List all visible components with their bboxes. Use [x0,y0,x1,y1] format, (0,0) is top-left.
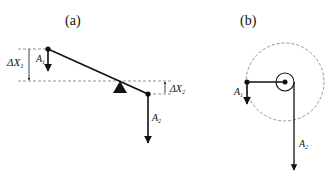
force-a1-label: A1 [35,53,45,65]
panel-a-label: (a) [65,13,81,29]
lever-bar [48,49,148,94]
force-a1-label-b: A1 [233,86,243,98]
force-a2-label: A2 [151,112,161,124]
panel-b: (b) A1 A2 [233,13,324,170]
lever-diagram: (a) ΔX1 A1 ΔX2 A2 (b) A1 A [0,0,330,172]
panel-b-label: (b) [240,13,257,29]
panel-a: (a) ΔX1 A1 ΔX2 A2 [6,13,185,143]
force-a2-label-b: A2 [298,138,308,150]
delta-x1-label: ΔX1 [6,56,24,70]
delta-x2-label: ΔX2 [169,83,185,95]
